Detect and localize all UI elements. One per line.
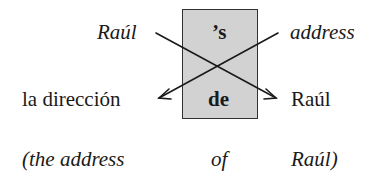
arrow-line-down-left xyxy=(159,33,278,98)
arrow-line-down-right xyxy=(156,33,276,98)
crossing-arrows xyxy=(0,0,389,173)
